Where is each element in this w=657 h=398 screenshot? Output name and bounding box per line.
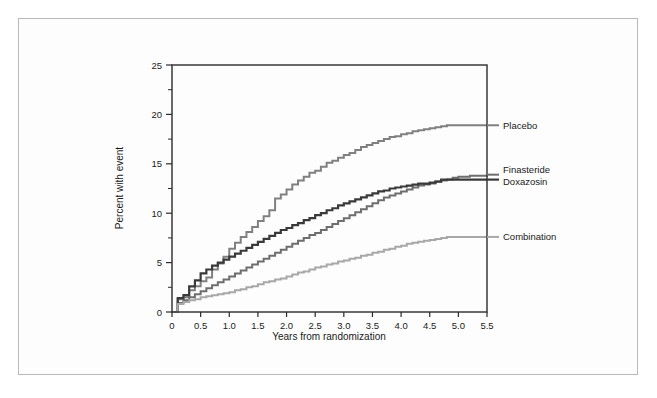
x-tick-label: 3.0 (337, 320, 350, 331)
x-tick-label: 5.0 (452, 320, 465, 331)
x-axis-ticks: 00.51.01.52.02.53.03.54.04.55.05.5 (169, 312, 493, 331)
x-tick-label: 3.5 (366, 320, 379, 331)
chart-svg: 00.51.01.52.02.53.03.54.04.55.05.5 05101… (0, 0, 657, 398)
y-tick-label: 15 (151, 158, 162, 169)
x-tick-label: 1.0 (223, 320, 236, 331)
y-axis-title: Percent with event (114, 147, 125, 229)
series-labels: PlaceboFinasterideDoxazosinCombination (487, 120, 556, 243)
x-tick-label: 2.0 (280, 320, 293, 331)
y-tick-label: 0 (157, 307, 162, 318)
y-tick-label: 5 (157, 257, 162, 268)
x-tick-label: 4.0 (394, 320, 407, 331)
x-tick-label: 1.5 (251, 320, 264, 331)
kaplan-meier-chart: 00.51.01.52.02.53.03.54.04.55.05.5 05101… (0, 0, 657, 398)
y-tick-label: 10 (151, 208, 162, 219)
y-axis-ticks: 0510152025 (151, 60, 172, 318)
series-label-doxazosin: Doxazosin (503, 176, 547, 187)
y-tick-label: 25 (151, 60, 162, 71)
series-label-finasteride: Finasteride (503, 164, 550, 175)
x-tick-label: 4.5 (423, 320, 436, 331)
x-axis-title: Years from randomization (272, 331, 386, 342)
x-tick-label: 0.5 (194, 320, 207, 331)
x-tick-label: 0 (169, 320, 174, 331)
x-tick-label: 2.5 (309, 320, 322, 331)
x-tick-label: 5.5 (480, 320, 493, 331)
y-tick-label: 20 (151, 109, 162, 120)
plot-area-background (172, 65, 487, 312)
series-label-combination: Combination (503, 231, 556, 242)
series-label-placebo: Placebo (503, 120, 537, 131)
